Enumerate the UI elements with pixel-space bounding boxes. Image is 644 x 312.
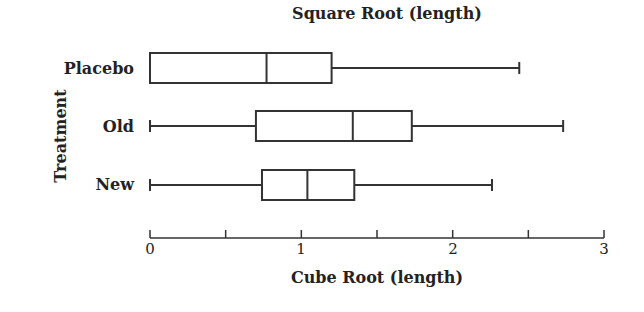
iqr-box: [150, 53, 332, 83]
x-axis-label: Cube Root (length): [150, 268, 604, 287]
boxplot-new: [150, 170, 492, 200]
x-tick-1: 1: [296, 240, 306, 258]
boxplot-old: [150, 111, 563, 141]
x-tick-3: 3: [599, 240, 609, 258]
x-tick-2: 2: [448, 240, 458, 258]
boxplot-placebo: [150, 53, 519, 83]
iqr-box: [256, 111, 412, 141]
x-axis: [150, 230, 604, 238]
boxplot-area: [0, 0, 644, 312]
x-tick-0: 0: [145, 240, 155, 258]
